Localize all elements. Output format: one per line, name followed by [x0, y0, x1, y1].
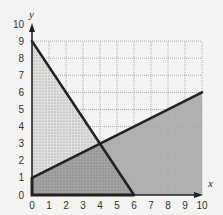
x-tick-label: 8: [165, 200, 171, 211]
y-tick-label: 10: [13, 19, 25, 30]
x-tick-label: 3: [80, 200, 86, 211]
y-axis-arrow-icon: [29, 23, 35, 32]
y-tick-label: 7: [18, 70, 24, 81]
x-tick-label: 2: [63, 200, 69, 211]
y-tick-label: 4: [18, 121, 24, 132]
x-tick-label: 0: [29, 200, 35, 211]
x-tick-label: 9: [182, 200, 188, 211]
x-tick-label: 7: [148, 200, 154, 211]
y-tick-label: 9: [18, 36, 24, 47]
x-tick-label: 5: [114, 200, 120, 211]
x-tick-label: 1: [46, 200, 52, 211]
y-tick-label: 1: [18, 172, 24, 183]
x-tick-label: 4: [97, 200, 103, 211]
y-tick-label: 5: [18, 104, 24, 115]
chart: 012345678910012345678910 x y: [0, 0, 223, 215]
y-tick-label: 0: [18, 190, 24, 201]
y-tick-label: 2: [18, 155, 24, 166]
y-tick-label: 3: [18, 138, 24, 149]
y-tick-label: 6: [18, 87, 24, 98]
y-axis-label: y: [28, 8, 34, 20]
y-tick-label: 8: [18, 53, 24, 64]
x-axis-label: x: [207, 177, 213, 189]
x-tick-label: 10: [196, 200, 208, 211]
x-tick-label: 6: [131, 200, 137, 211]
